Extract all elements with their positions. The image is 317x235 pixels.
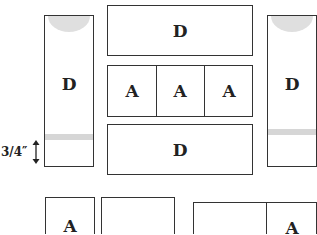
bottom-right-panel: A [193,202,317,234]
panel-label: D [62,75,77,92]
divider [156,66,157,116]
bottom-blank-panel [101,197,175,234]
top-shading [48,16,90,32]
panel-label: A [222,83,235,100]
a-row-panel: A A A [107,65,253,117]
panel-label: D [173,141,188,158]
panel-label: A [173,83,186,100]
panel-label: D [173,22,188,39]
dimension-label: 3/4″ [1,145,27,159]
left-tall-panel: D [44,15,94,167]
seam-band [268,129,316,135]
divider [266,203,267,234]
panel-label: A [63,218,76,235]
double-arrow-icon [31,140,41,164]
panel-label: A [125,83,138,100]
seam-band [45,134,93,140]
panel-label: D [285,75,300,92]
right-tall-panel: D [267,15,317,167]
top-shading [271,16,313,32]
divider [204,66,205,116]
bottom-wide-panel: D [107,124,253,175]
top-wide-panel: D [107,5,253,56]
bottom-left-a-panel: A [45,197,95,234]
panel-label: A [285,220,298,235]
